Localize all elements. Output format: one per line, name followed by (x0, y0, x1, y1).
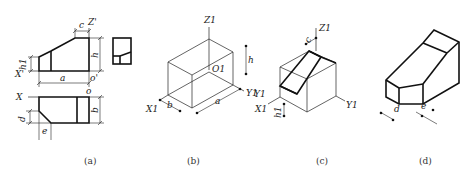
label-d: d (17, 116, 27, 122)
label-d: d (394, 104, 400, 114)
caption-d: (d) (419, 156, 432, 166)
technical-drawing: c Z' h h1 X' a o' (0, 0, 471, 179)
side-view (113, 38, 131, 64)
label-h1: h1 (273, 106, 283, 118)
label-b: b (167, 100, 173, 110)
label-x: X (15, 92, 23, 102)
caption-b: (b) (187, 156, 200, 166)
panel-a: c Z' h h1 X' a o' (14, 17, 131, 166)
label-e: e (42, 126, 47, 136)
label-x1: X1 (145, 104, 158, 114)
label-a: a (215, 96, 220, 106)
panel-d: d e (d) (380, 30, 459, 166)
label-z1: Z1 (203, 15, 216, 25)
panel-c: Z1 c X1 Y1 h1 Y1 (c) (254, 23, 358, 166)
label-z1: Z1 (318, 23, 331, 33)
label-x-prime: X' (14, 69, 24, 79)
label-o-prime: o' (90, 73, 98, 83)
caption-a: (a) (84, 156, 96, 166)
top-view: X o b d e (15, 86, 104, 140)
label-a: a (60, 73, 65, 83)
label-o1: O1 (212, 64, 225, 74)
label-h: h (90, 52, 100, 58)
label-c: c (79, 20, 84, 30)
caption-c: (c) (316, 156, 328, 166)
label-x1: X1 (254, 104, 267, 114)
front-view: c Z' h h1 X' a o' (14, 17, 104, 87)
label-z-prime: Z' (87, 17, 97, 27)
label-o: o (86, 86, 92, 96)
panel-b: Z1 O1 X1 Y1 b a h (b) (145, 15, 258, 166)
label-h: h (248, 55, 254, 65)
label-e: e (421, 101, 426, 111)
label-y1-left: Y1 (254, 89, 266, 99)
label-b: b (90, 107, 100, 113)
label-c: c (302, 35, 313, 44)
label-y1: Y1 (346, 100, 358, 110)
